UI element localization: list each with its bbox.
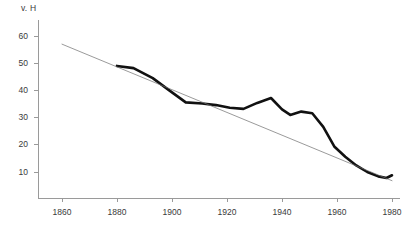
chart-container: v. H 102030405060 1860188019001920194019… <box>0 0 420 233</box>
series-line-observed <box>117 66 392 178</box>
data-series-group <box>62 44 392 181</box>
plot-area <box>0 0 420 233</box>
series-line-trend <box>62 44 392 181</box>
axes-group <box>34 20 400 202</box>
